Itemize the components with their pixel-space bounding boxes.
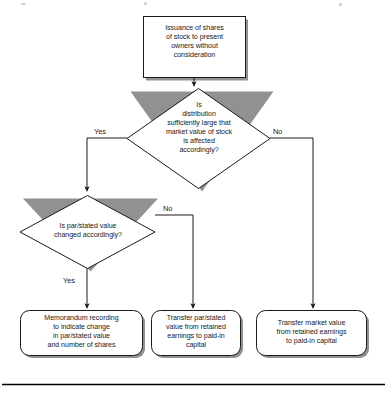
edge-decision1-yes [87,138,127,189]
scan-speck [339,3,342,6]
node-start [144,17,246,78]
flowchart-page: Issuance of shares of stock to present o… [0,0,387,393]
node-outcome3 [257,311,367,356]
edge-label-decision1-yes: Yes [94,128,106,136]
edge-decision1-no [270,138,313,306]
edge-label-decision2-yes: Yes [63,277,75,285]
node-outcome2 [152,311,241,356]
node-outcome1 [21,311,143,356]
edge-decision2-no [155,215,193,306]
edge-label-decision2-no: No [163,205,172,213]
scan-speck [21,3,26,5]
scan-speck [144,2,147,5]
flowchart-canvas [0,0,387,393]
edge-label-decision1-no: No [273,128,282,136]
